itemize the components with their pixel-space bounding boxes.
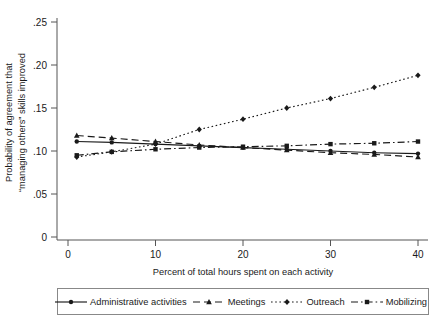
y-tick-label: .25	[33, 17, 47, 28]
x-tick-label: 40	[412, 249, 424, 260]
data-point-square	[372, 141, 376, 145]
data-point-square	[75, 153, 79, 157]
legend-swatch-circle	[54, 296, 88, 308]
legend-item-administrative-activities[interactable]: Administrative activities	[54, 296, 192, 308]
data-point-square	[364, 299, 368, 303]
x-tick-label: 10	[150, 249, 162, 260]
legend-item-label: Administrative activities	[88, 297, 192, 307]
series-meetings	[74, 133, 421, 160]
data-point-square	[285, 144, 289, 148]
legend-swatch-triangle	[192, 296, 226, 308]
legend-item-mobilizing[interactable]: Mobilizing	[350, 296, 432, 308]
plot-area: 0.05.10.15.20.25010203040Percent of tota…	[0, 0, 435, 325]
legend-item-label: Outreach	[304, 297, 349, 307]
legend-item-outreach[interactable]: Outreach	[270, 296, 349, 308]
chart-legend: Administrative activitiesMeetingsOutreac…	[57, 288, 429, 315]
chart-figure: Probability of agreement that “managing …	[0, 0, 435, 325]
data-point-circle	[75, 139, 79, 143]
data-point-circle	[69, 299, 73, 303]
data-point-diamond	[415, 72, 420, 78]
data-point-square	[197, 145, 201, 149]
x-tick-label: 20	[237, 249, 249, 260]
data-point-circle	[110, 140, 114, 144]
data-point-square	[153, 147, 157, 151]
legend-item-label: Meetings	[226, 297, 271, 307]
y-tick-label: .20	[33, 60, 47, 71]
legend-item-label: Mobilizing	[384, 297, 432, 307]
data-point-diamond	[197, 127, 202, 133]
y-tick-label: .05	[33, 189, 47, 200]
x-tick-label: 30	[325, 249, 337, 260]
x-tick-label: 0	[65, 249, 71, 260]
data-point-diamond	[285, 299, 290, 305]
data-point-triangle	[415, 154, 421, 159]
data-point-diamond	[328, 96, 333, 102]
legend-swatch-square	[350, 296, 384, 308]
y-tick-label: 0	[41, 232, 47, 243]
series-line	[77, 75, 418, 157]
x-axis-title: Percent of total hours spent on each act…	[153, 267, 334, 277]
legend-swatch-diamond	[270, 296, 304, 308]
y-tick-label: .15	[33, 103, 47, 114]
legend-item-meetings[interactable]: Meetings	[192, 296, 271, 308]
data-point-diamond	[372, 84, 377, 90]
y-tick-label: .10	[33, 146, 47, 157]
data-point-diamond	[240, 116, 245, 122]
data-point-square	[328, 142, 332, 146]
data-point-square	[241, 145, 245, 149]
data-point-diamond	[284, 105, 289, 111]
data-point-square	[110, 150, 114, 154]
data-point-square	[416, 139, 420, 143]
